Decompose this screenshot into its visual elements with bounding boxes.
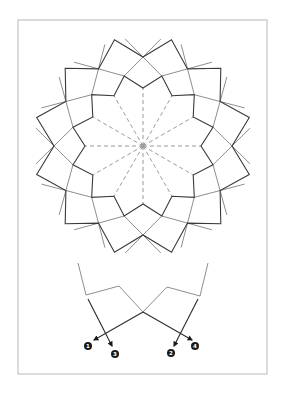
square-edge-gray [188,62,212,69]
square-edge-gray [74,62,98,69]
square-edge-gray [181,44,187,69]
step-number-labels: 1234 [84,342,199,358]
label-number: 4 [193,343,197,349]
step-label-3: 3 [111,350,119,358]
square-edge-gray [99,223,105,248]
step-label-2: 2 [167,349,175,357]
square-edge-gray [220,184,245,190]
radial-dashed-line [143,117,193,146]
detail-gray-lines [78,263,208,312]
radial-dashed-line [114,146,143,196]
twelve-fold-rosette [36,39,250,253]
radial-dashed-line [93,146,143,175]
step-label-1: 1 [84,342,92,350]
label-number: 3 [113,351,117,357]
square-edge-gray [181,223,187,248]
radial-dashed-line [143,146,193,175]
square-edge-gray [188,223,212,230]
radial-dashed-line [114,96,143,146]
fold-arrow-3 [88,299,112,346]
radial-dashed-line [93,117,143,146]
square-edge-gray [59,191,66,215]
radial-dashed-line [143,146,172,196]
square-edge-gray [220,102,245,108]
step-label-4: 4 [191,342,199,350]
square-edge-gray [220,191,227,215]
square-edge-gray [74,223,98,230]
detail-gray-polyline [78,263,208,312]
radial-dashed-line [143,96,172,146]
detail-arrows [88,299,198,346]
square-edge-gray [99,44,105,69]
square-edge-gray [41,184,66,190]
square-edge-gray [59,77,66,101]
square-edge-gray [220,77,227,101]
label-number: 2 [169,350,173,356]
rosette-diagram: 1234 [0,0,281,399]
radial-dashed-lines [85,88,201,204]
fold-detail: 1234 [78,263,208,358]
label-number: 1 [86,343,90,349]
fold-arrow-2 [174,299,198,346]
square-edge-gray [41,102,66,108]
